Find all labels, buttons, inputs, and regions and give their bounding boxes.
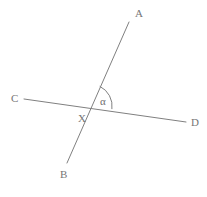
- point-label-x: X: [78, 113, 86, 124]
- geometry-figure: A B C D X α: [0, 0, 207, 197]
- point-label-c: C: [11, 93, 19, 104]
- angle-label-alpha: α: [100, 96, 106, 107]
- point-label-a: A: [135, 8, 143, 19]
- point-label-d: D: [191, 117, 199, 128]
- point-label-b: B: [60, 169, 68, 180]
